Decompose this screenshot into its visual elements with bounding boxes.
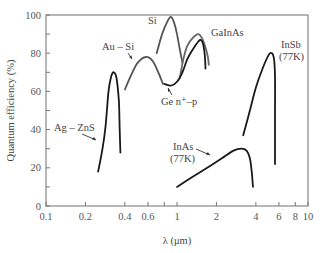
label-inas-name: InAs [173, 141, 193, 152]
curve-ag-zns [98, 72, 120, 171]
curve-ge-n-p [164, 40, 205, 86]
y-tick-label: 80 [31, 48, 42, 59]
x-tick-label: 0.2 [79, 211, 92, 222]
label-insb-name: InSb [281, 39, 301, 50]
x-tick-label: 2 [214, 211, 219, 222]
x-tick-label: 0.1 [39, 211, 52, 222]
quantum-efficiency-chart: 0.10.20.40.61246810020406080100λ (μm)Qua… [0, 0, 323, 253]
curve-si [157, 17, 183, 63]
x-tick-label: 1 [174, 211, 179, 222]
y-tick-label: 100 [25, 10, 41, 21]
label-gainas: GaInAs [211, 27, 244, 38]
label-ag-zns: Ag – ZnS [54, 122, 95, 133]
x-tick-label: 8 [293, 211, 298, 222]
y-tick-label: 40 [31, 124, 42, 135]
y-tick-label: 20 [31, 162, 42, 173]
label-inas-temp: (77K) [170, 153, 196, 165]
label-si: Si [148, 15, 157, 26]
y-axis-title: Quantum efficiency (%) [5, 59, 17, 161]
label-ge: Ge n⁺–p [161, 96, 197, 107]
curve-annotations: Ag – ZnS Au – Si Si GaInAs Ge n⁺–p InAs … [54, 15, 305, 165]
x-tick-label: 4 [253, 211, 259, 222]
x-tick-label: 6 [276, 211, 281, 222]
curve-au-si [125, 57, 163, 90]
x-tick-label: 10 [303, 211, 314, 222]
x-tick-label: 0.4 [118, 211, 132, 222]
plot-frame [46, 15, 308, 206]
y-tick-label: 0 [36, 201, 41, 212]
x-axis-title: λ (μm) [163, 235, 192, 247]
label-au-si: Au – Si [102, 41, 134, 52]
x-tick-label: 0.6 [141, 211, 154, 222]
label-insb-temp: (77K) [279, 51, 305, 63]
curve-insb-77k [243, 53, 275, 164]
y-tick-label: 60 [31, 86, 42, 97]
